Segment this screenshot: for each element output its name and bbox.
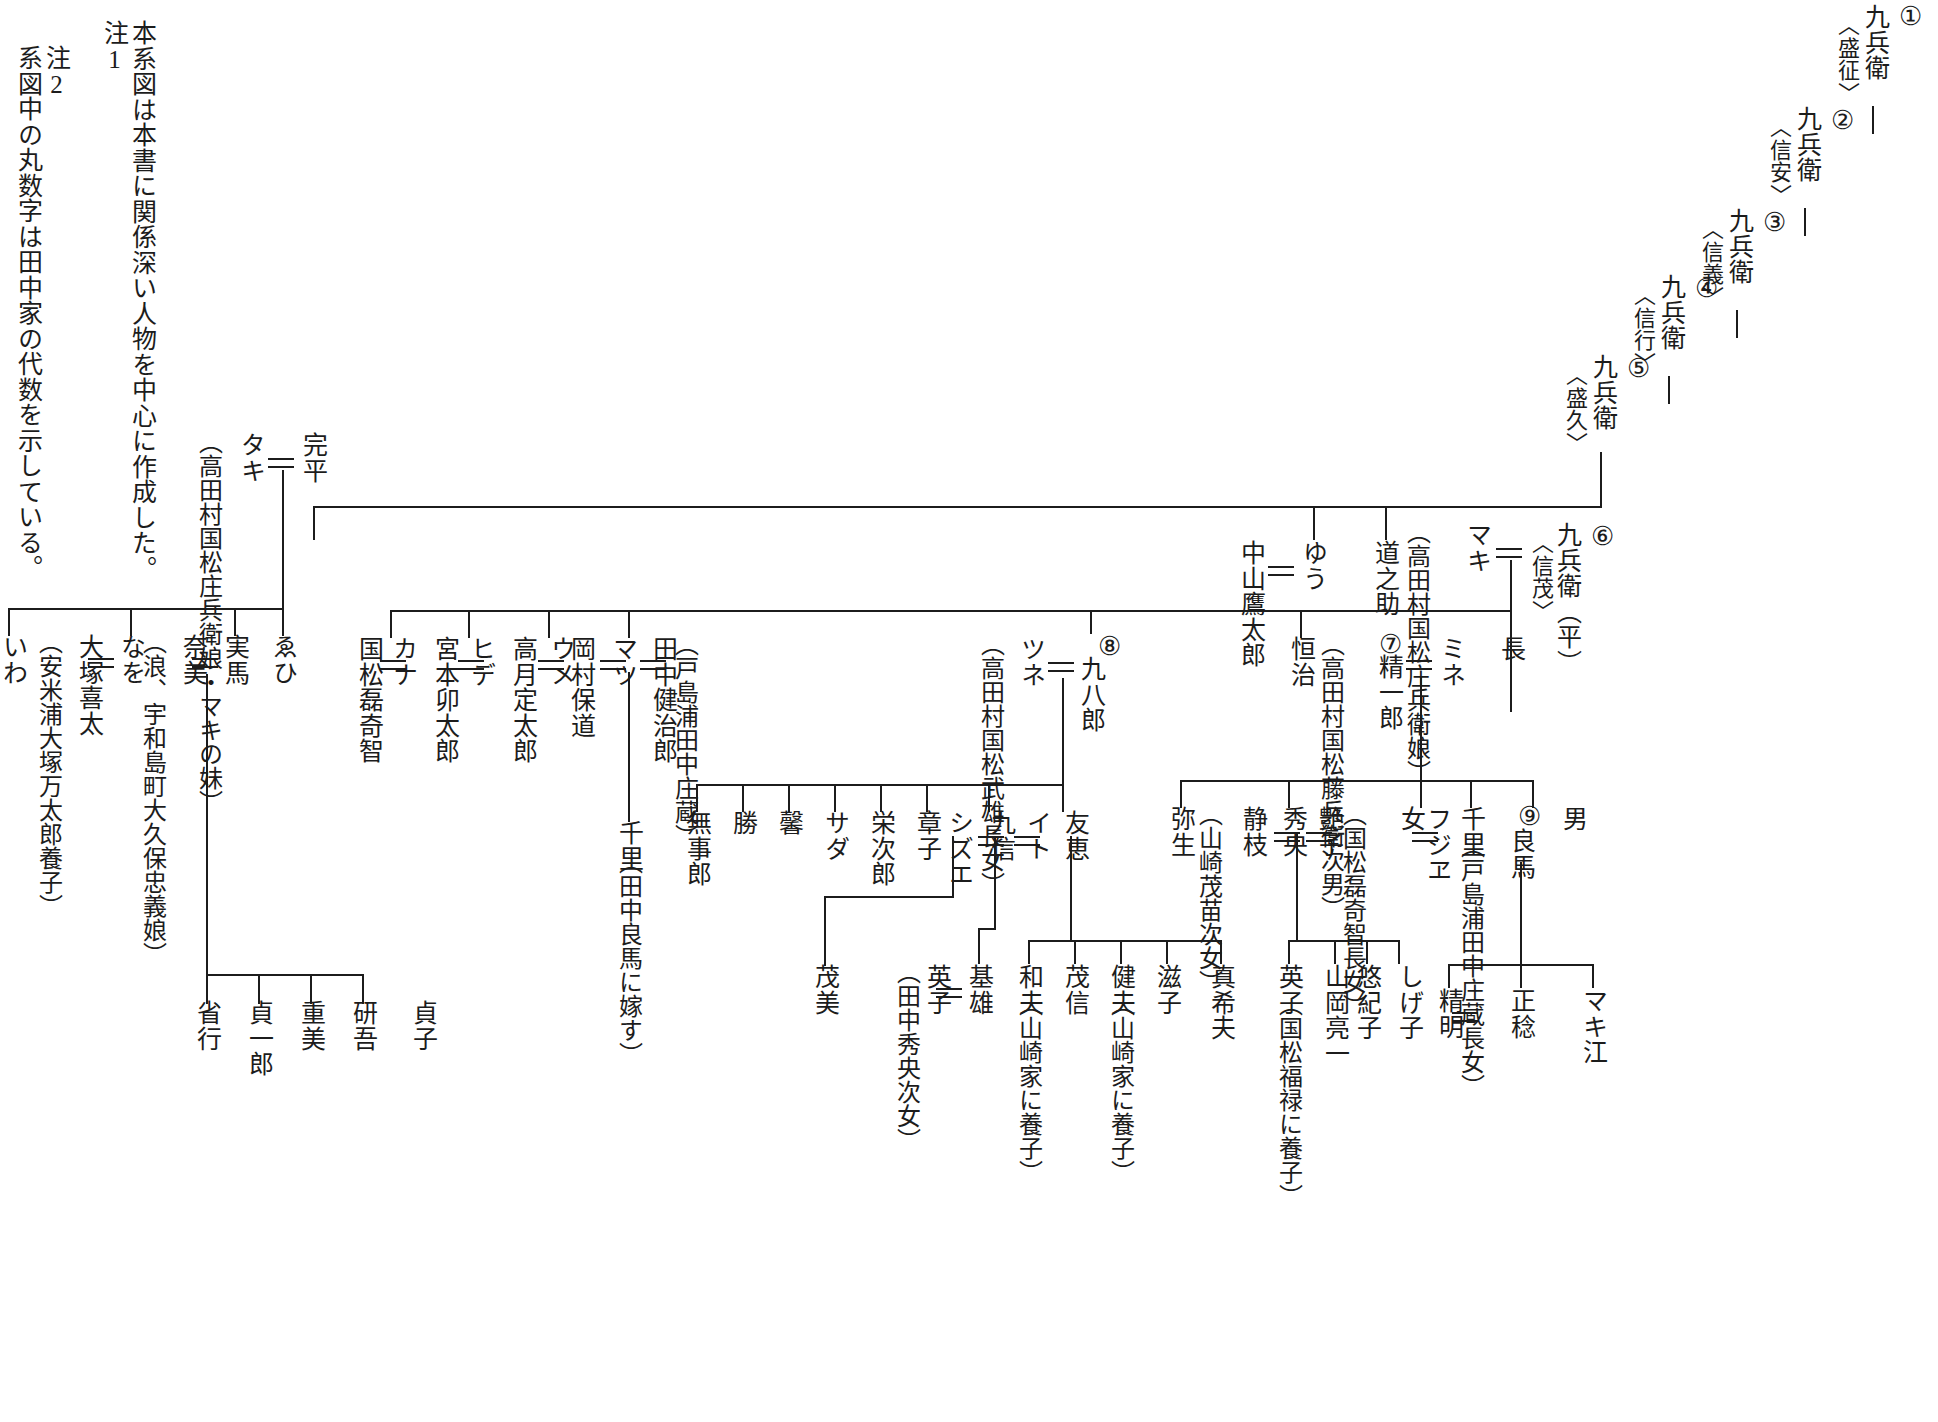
masatoshi-stem (1520, 964, 1522, 988)
akiko-stem (926, 784, 928, 812)
nami-name: 奈美 (180, 634, 206, 685)
hideko-note: 田中秀央次女 (894, 960, 918, 1152)
kanpei-stem (313, 506, 315, 540)
kengo-name: 研吾 (350, 1000, 376, 1051)
shigenobu-name: 茂信 (1062, 964, 1088, 1015)
matsu-to-child (628, 672, 630, 822)
mine-name: ミネ (1438, 636, 1464, 687)
matsu-stem (628, 610, 630, 638)
shigemi2-stem (824, 896, 826, 966)
otsuka-note: 安米浦大塚万太郎養子 (36, 630, 60, 918)
seimei-stem (1448, 964, 1450, 988)
masatoshi-name: 正稔 (1508, 988, 1534, 1039)
taki-name: タキ (238, 432, 264, 483)
hide-name: ヒデ (468, 636, 494, 687)
kazuo-note: 山崎家に養子 (1016, 992, 1040, 1184)
ito-name: イト (1024, 810, 1050, 861)
kanpei-to-children (282, 470, 284, 608)
gen-3-name: 九兵衛 (1726, 208, 1752, 285)
miyamoto-utaro-name: 宮本卯太郎 (432, 636, 458, 764)
gen-1-name: 九兵衛 (1862, 4, 1888, 81)
chisato2-stem (1470, 780, 1472, 808)
gen-3-4-connector (1736, 310, 1738, 338)
gen-4-5-connector (1668, 376, 1670, 404)
sada-name: サダ (822, 810, 848, 861)
shigeko2-stem (1398, 940, 1400, 964)
hideko-name: 英子 (924, 964, 950, 1015)
gen-5-kakumei: 〈盛久〉 (1562, 364, 1585, 454)
taki-note: 高田村国松庄兵衛娘・マキの妹 (196, 430, 220, 814)
nawo-name: なを (118, 634, 144, 685)
michinosuke-stem (1385, 506, 1387, 540)
gen5-children-bar (313, 506, 1602, 508)
gen-6-name: 九兵衛（平） (1554, 522, 1580, 675)
tsuneharu-stem (1300, 610, 1302, 638)
gen-5-number: ⑤ (1627, 356, 1650, 382)
gen-6-spouse-note: 高田村国松庄兵衛娘 (1404, 520, 1428, 784)
tomoe-name: 友恵 (1062, 810, 1088, 861)
kunobu-name: 九信 (988, 810, 1014, 861)
gen-5-6-connector (1600, 452, 1602, 507)
shizue2-name: 静枝 (1240, 806, 1266, 857)
hideo-down (1296, 832, 1298, 940)
gen-2-number: ② (1831, 108, 1854, 134)
jitsuma-stem (234, 608, 236, 636)
chou-stem (1510, 610, 1512, 638)
motoo-name: 基雄 (966, 964, 992, 1015)
hideo-name: 秀央 (1280, 806, 1306, 857)
yukiko-name: 悠紀子 (1354, 964, 1380, 1041)
gen-4-name: 九兵衛 (1658, 274, 1684, 351)
chisato2-note: 戸島浦田中庄蔵長女 (1458, 834, 1482, 1098)
gen-6-spouse: マキ (1464, 522, 1490, 573)
kana-name: カナ (390, 636, 416, 687)
note-1-label: 注1 (100, 20, 128, 73)
takatsuki-sadataro-name: 高月定太郎 (510, 636, 536, 764)
hideo-children-bar (1288, 940, 1398, 942)
bujiro-name: 無事郎 (684, 810, 710, 887)
iwa-name: いわ (0, 634, 26, 685)
michinosuke-name: 道之助 (1372, 540, 1398, 617)
gen-3-number: ③ (1763, 210, 1786, 236)
seiichiro-children-bar (1180, 780, 1532, 782)
shigenobu-stem (1074, 940, 1076, 964)
chisato-note: 田中良馬に嫁す (616, 850, 640, 1066)
gen-5-name: 九兵衛 (1590, 354, 1616, 431)
seimei-marriage-mark (1452, 1012, 1478, 1023)
tsuneharu-name: 恒治 (1288, 636, 1314, 687)
kunobu-down (994, 836, 996, 928)
tomoe-stem (1062, 784, 1064, 812)
jitsuma-children-bar (206, 974, 364, 976)
shizue-child-bar (824, 896, 954, 898)
eiko-stem (1288, 940, 1290, 964)
shizue2-note: 山崎茂苗次女 (1196, 802, 1220, 994)
yayoi-stem (1180, 780, 1182, 808)
gen-4-number: ④ (1695, 276, 1718, 302)
ryoma-to-children (1520, 862, 1522, 964)
seiichiro-to-children (1420, 676, 1422, 780)
gen-1-2-connector (1872, 106, 1874, 134)
bujiro-stem (696, 784, 698, 812)
ehi-stem (282, 608, 284, 636)
kuhachiro-stem (1090, 610, 1092, 634)
ehi-name: ゑひ (270, 634, 296, 685)
nawo-stem (130, 608, 132, 636)
sadako-name: 貞子 (410, 1000, 436, 1051)
tsune-name: ツネ (1018, 636, 1044, 687)
kazuo-stem (1028, 940, 1030, 964)
kuhachiro-name: 九八郎 (1078, 656, 1104, 733)
kunimatsu-raikichi-name: 国松磊奇智 (356, 636, 382, 764)
teiichiro-name: 貞一郎 (246, 1000, 272, 1077)
shigeko-stem (1166, 940, 1168, 964)
jitsuma-to-children (206, 674, 208, 974)
yamaoka-stem (1334, 940, 1336, 964)
gen-6-number: ⑥ (1591, 524, 1614, 550)
takeo-note: 山崎家に養子 (1108, 992, 1132, 1184)
tsuyako-name: 艶子 (1316, 806, 1342, 857)
iwa-stem (8, 608, 10, 636)
yuu-stem (1313, 506, 1315, 540)
kanpei-marriage-mark (268, 458, 294, 469)
kaoru-name: 馨 (776, 810, 802, 836)
eijiro-name: 栄次郎 (868, 810, 894, 887)
yuu-marriage-mark (1268, 566, 1294, 577)
kuhachiro-to-children (1062, 678, 1064, 784)
